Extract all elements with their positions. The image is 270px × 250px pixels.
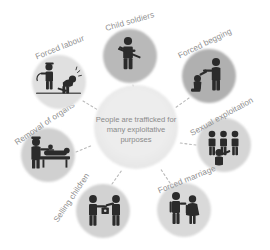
node-child-soldiers[interactable]: Child soldiers	[103, 10, 157, 83]
connector-selling-children	[112, 170, 122, 184]
node-forced-marriage[interactable]: Forced marriage	[157, 164, 218, 237]
center-text-line-3: purposes	[120, 135, 151, 144]
node-forced-labour-circle[interactable]	[32, 55, 86, 109]
center-text-line-2: many exploitative	[107, 125, 166, 134]
center-node: People are trafficked for many exploitat…	[94, 85, 178, 169]
connector-forced-labour	[83, 101, 98, 110]
connector-forced-begging	[175, 98, 189, 108]
node-forced-begging-circle[interactable]	[182, 49, 236, 103]
center-text-line-1: People are trafficked for	[96, 115, 177, 124]
connector-sexual-exploitation	[180, 143, 196, 145]
node-removal-of-organs[interactable]: Removal of organs	[13, 100, 76, 182]
node-forced-begging[interactable]: Forced begging	[177, 27, 236, 103]
node-selling-children[interactable]: Selling children	[52, 171, 130, 238]
infographic-canvas: People are trafficked for many exploitat…	[0, 0, 270, 250]
connector-forced-marriage	[160, 168, 170, 183]
connector-removal-of-organs	[76, 145, 93, 152]
node-forced-labour[interactable]: Forced labour	[32, 34, 86, 109]
node-sexual-exploitation[interactable]: Sexual exploitation	[189, 95, 255, 172]
